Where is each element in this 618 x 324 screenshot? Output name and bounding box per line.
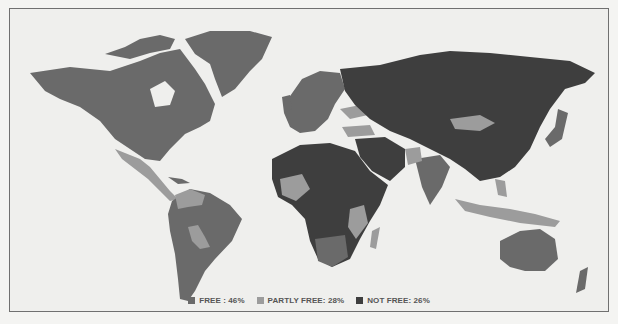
region-madagascar [370,227,380,249]
legend-item-not-free: NOT FREE: 26% [356,296,430,305]
map-frame: FREE : 46% PARTLY FREE: 28% NOT FREE: 26… [9,8,609,312]
region-australia [500,229,558,271]
legend-item-free: FREE : 46% [188,296,244,305]
region-japan [545,109,568,147]
swatch-free-icon [188,297,195,304]
region-new-zealand [576,267,588,293]
swatch-partly-free-icon [257,297,264,304]
region-europe [284,71,345,133]
swatch-not-free-icon [356,297,363,304]
region-caribbean [168,177,190,184]
world-map [10,9,609,312]
region-southern-africa [315,235,348,267]
region-indonesia [455,199,560,227]
region-north-america [30,49,215,161]
legend-label-not-free: NOT FREE: 26% [367,296,430,305]
legend-item-partly-free: PARTLY FREE: 28% [257,296,345,305]
region-india [415,155,450,205]
region-turkey [342,125,375,137]
region-philippines [495,179,507,197]
map-legend: FREE : 46% PARTLY FREE: 28% NOT FREE: 26… [10,296,608,305]
legend-label-free: FREE : 46% [199,296,244,305]
legend-label-partly-free: PARTLY FREE: 28% [268,296,345,305]
